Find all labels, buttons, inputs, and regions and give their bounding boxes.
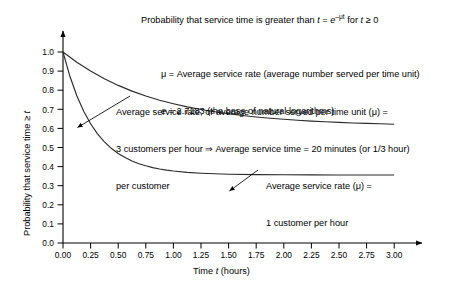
header-exponent: –μt (335, 13, 344, 20)
y-tick-label-4: 0.4 (30, 162, 54, 172)
y-axis-title-pre: Probability that service time ≥ (22, 114, 32, 236)
y-tick-label-8: 0.8 (30, 85, 54, 95)
x-tick-label-12: 3.00 (380, 250, 408, 260)
x-tick-label-3: 0.75 (132, 250, 160, 260)
y-tick-label-6: 0.6 (30, 124, 54, 134)
definition-mu-line: μ = Average service rate (average number… (161, 68, 420, 80)
chart-header-note: Probability that service time is greater… (141, 15, 378, 27)
y-tick-label-1: 0.1 (30, 219, 54, 229)
mu1-annotation: Average service rate (μ) = 1 customer pe… (266, 156, 372, 254)
y-tick-label-10: 1.0 (30, 47, 54, 57)
x-tick-label-4: 1.00 (159, 250, 187, 260)
exponential-service-time-chart: Probability that service time is greater… (0, 0, 457, 288)
y-axis-title: Probability that service time ≥ t (22, 111, 32, 236)
x-tick-label-6: 1.50 (215, 250, 243, 260)
mu3-line-2: 3 customers per hour ⇒ Average service t… (116, 143, 410, 155)
header-text-part3: ≥ 0 (363, 15, 378, 25)
y-tick-label-3: 0.3 (30, 181, 54, 191)
x-tick-label-8: 2.00 (270, 250, 298, 260)
x-tick-label-11: 2.75 (353, 250, 381, 260)
y-axis-ticks (58, 52, 64, 243)
header-text-part1: Probability that service time is greater… (141, 15, 317, 25)
mu1-line-2: 1 customer per hour (266, 217, 372, 229)
y-tick-label-0: 0.0 (30, 238, 54, 248)
x-tick-label-10: 2.50 (325, 250, 353, 260)
mu3-line-1: Average service rate, or average number … (116, 106, 410, 118)
x-tick-label-7: 1.75 (242, 250, 270, 260)
mu1-line-1: Average service rate (μ) = (266, 180, 372, 192)
y-tick-label-7: 0.7 (30, 105, 54, 115)
y-tick-label-5: 0.5 (30, 143, 54, 153)
y-axis-title-var: t (22, 111, 32, 114)
x-axis-title-post: (hours) (218, 266, 250, 276)
x-tick-label-0: 0.00 (49, 250, 77, 260)
x-tick-label-5: 1.25 (187, 250, 215, 260)
y-tick-label-2: 0.2 (30, 200, 54, 210)
x-tick-label-2: 0.50 (104, 250, 132, 260)
header-text-part2: for (345, 15, 361, 25)
x-tick-label-9: 2.25 (297, 250, 325, 260)
x-axis-title: Time t (hours) (193, 266, 250, 276)
x-tick-label-1: 0.25 (77, 250, 105, 260)
y-tick-label-9: 0.9 (30, 66, 54, 76)
x-axis-title-pre: Time (193, 266, 216, 276)
header-equals: = (320, 15, 330, 25)
